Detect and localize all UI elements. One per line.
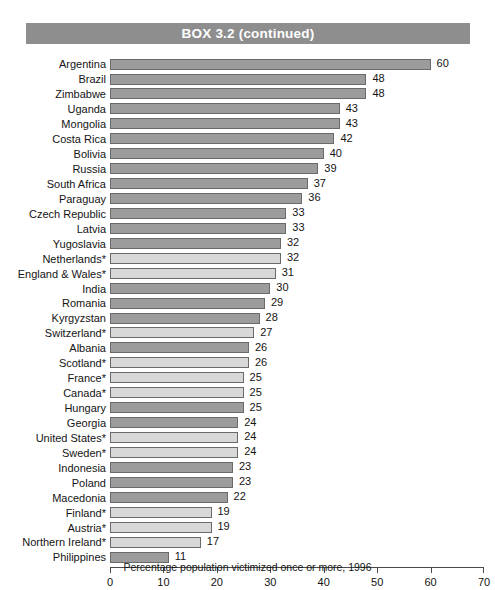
bar-value-label: 17 (207, 536, 219, 547)
bar-track (110, 74, 366, 85)
bar-row: Paraguay36 (0, 191, 495, 206)
bar-track (110, 103, 340, 114)
bar-value-label: 26 (255, 357, 267, 368)
bar-chart: Argentina60Brazil48Zimbabwe48Uganda43Mon… (0, 57, 495, 537)
bar-track (110, 88, 366, 99)
bar (110, 103, 340, 114)
bar-row-label: Northern Ireland* (0, 536, 106, 548)
bar (110, 298, 265, 309)
bar-rows: Argentina60Brazil48Zimbabwe48Uganda43Mon… (0, 57, 495, 565)
bar-value-label: 27 (260, 327, 272, 338)
bar (110, 387, 244, 398)
bar-row: Mongolia43 (0, 117, 495, 132)
bar-track (110, 283, 270, 294)
bar-row-label: England & Wales* (0, 268, 106, 280)
bar-value-label: 39 (324, 163, 336, 174)
bar-row: Bolivia40 (0, 147, 495, 162)
bar-row-label: Canada* (0, 387, 106, 399)
bar (110, 507, 212, 518)
bar-row-label: Sweden* (0, 447, 106, 459)
bar-row-label: Macedonia (0, 492, 106, 504)
bar-row-label: Poland (0, 477, 106, 489)
bar-value-label: 26 (255, 342, 267, 353)
bar (110, 253, 281, 264)
bar-track (110, 253, 281, 264)
box-title-text: BOX 3.2 (continued) (182, 27, 315, 41)
bar-track (110, 118, 340, 129)
bar-track (110, 313, 260, 324)
bar-row-label: Finland* (0, 507, 106, 519)
bar (110, 74, 366, 85)
bar-row: Austria*19 (0, 520, 495, 535)
bar-row-label: United States* (0, 432, 106, 444)
bar-track (110, 178, 308, 189)
x-axis-tick-label: 60 (424, 576, 436, 588)
bar-track (110, 133, 334, 144)
bar-track (110, 372, 244, 383)
bar-row: Georgia24 (0, 416, 495, 431)
bar-row-label: India (0, 283, 106, 295)
bar-track (110, 208, 286, 219)
bar (110, 327, 254, 338)
bar-row-label: Yugoslavia (0, 238, 106, 250)
bar-row-label: Mongolia (0, 118, 106, 130)
bar-row: Zimbabwe48 (0, 87, 495, 102)
bar-value-label: 19 (218, 506, 230, 517)
bar (110, 342, 249, 353)
x-axis-tick-label: 10 (157, 576, 169, 588)
bar-row: Albania26 (0, 341, 495, 356)
bar (110, 477, 233, 488)
bar-track (110, 342, 249, 353)
bar-row: Russia39 (0, 162, 495, 177)
bar-row: Yugoslavia32 (0, 236, 495, 251)
bar-value-label: 19 (218, 521, 230, 532)
bar-row: Romania29 (0, 296, 495, 311)
bar-track (110, 357, 249, 368)
bar (110, 522, 212, 533)
bar-value-label: 25 (250, 402, 262, 413)
bar-row: Kyrgyzstan28 (0, 311, 495, 326)
bar-value-label: 30 (276, 282, 288, 293)
bar (110, 417, 238, 428)
bar (110, 537, 201, 548)
bar-row-label: Austria* (0, 522, 106, 534)
bar-row: Hungary25 (0, 401, 495, 416)
bar-row-label: Zimbabwe (0, 88, 106, 100)
bar-track (110, 238, 281, 249)
bar-track (110, 387, 244, 398)
bar-value-label: 60 (437, 58, 449, 69)
bar-row-label: Paraguay (0, 193, 106, 205)
bar-track (110, 417, 238, 428)
bar-track (110, 402, 244, 413)
bar-row: England & Wales*31 (0, 266, 495, 281)
bar-track (110, 193, 302, 204)
bar-track (110, 148, 324, 159)
bar-row-label: Costa Rica (0, 133, 106, 145)
bar-row: Netherlands*32 (0, 251, 495, 266)
bar-value-label: 24 (244, 446, 256, 457)
bar-value-label: 23 (239, 476, 251, 487)
bar-row-label: South Africa (0, 178, 106, 190)
bar-track (110, 522, 212, 533)
bar-row-label: Uganda (0, 103, 106, 115)
bar (110, 447, 238, 458)
bar-value-label: 23 (239, 461, 251, 472)
bar-row: Northern Ireland*17 (0, 535, 495, 550)
bar-row-label: Switzerland* (0, 327, 106, 339)
bar-row: Finland*19 (0, 505, 495, 520)
bar-track (110, 223, 286, 234)
bar-value-label: 29 (271, 297, 283, 308)
bar-row-label: Latvia (0, 223, 106, 235)
bar-row-label: Scotland* (0, 357, 106, 369)
bar-value-label: 24 (244, 417, 256, 428)
bar (110, 268, 276, 279)
bar-value-label: 22 (234, 491, 246, 502)
bar-row: Scotland*26 (0, 356, 495, 371)
bar (110, 59, 431, 70)
bar-track (110, 59, 431, 70)
bar-row-label: Albania (0, 342, 106, 354)
x-axis-tick-label: 0 (107, 576, 113, 588)
bar-row: Brazil48 (0, 72, 495, 87)
bar-value-label: 25 (250, 387, 262, 398)
bar-track (110, 163, 318, 174)
